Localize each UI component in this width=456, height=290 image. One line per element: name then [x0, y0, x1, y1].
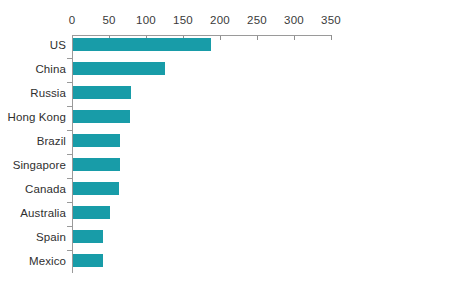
bar — [73, 182, 119, 195]
y-axis-tick — [67, 202, 72, 203]
x-axis-tick-label: 100 — [136, 14, 156, 26]
x-axis-tick-label: 50 — [102, 14, 115, 26]
y-axis-tick — [67, 106, 72, 107]
category-label: China — [35, 63, 66, 75]
category-label: Singapore — [13, 159, 66, 171]
category-label: US — [50, 39, 66, 51]
category-label: Australia — [20, 207, 66, 219]
x-axis-tick-label: 300 — [284, 14, 304, 26]
x-axis-tick-label: 350 — [321, 14, 341, 26]
x-axis-tick — [331, 35, 332, 40]
y-axis-tick — [67, 250, 72, 251]
bar — [73, 206, 110, 219]
x-axis-tick-label: 250 — [247, 14, 267, 26]
category-label: Russia — [30, 87, 66, 99]
bar — [73, 62, 165, 75]
x-axis-tick-label: 0 — [69, 14, 76, 26]
bar — [73, 38, 211, 51]
x-axis-tick-label: 200 — [210, 14, 230, 26]
y-axis-tick — [67, 178, 72, 179]
category-label: Brazil — [37, 135, 66, 147]
y-axis-tick — [67, 82, 72, 83]
bar — [73, 158, 120, 171]
y-axis-tick — [67, 58, 72, 59]
y-axis-tick — [67, 130, 72, 131]
bar — [73, 134, 120, 147]
category-label: Hong Kong — [8, 111, 66, 123]
category-label: Canada — [25, 183, 66, 195]
x-axis-line — [72, 35, 331, 36]
x-axis-tick-label: 150 — [173, 14, 193, 26]
y-axis-tick — [67, 226, 72, 227]
bar-chart: 0 50 100 150 200 250 300 350 US China Ru… — [0, 0, 456, 290]
bar — [73, 230, 103, 243]
category-label: Spain — [36, 231, 66, 243]
bar — [73, 254, 103, 267]
bar — [73, 86, 131, 99]
category-label: Mexico — [29, 255, 66, 267]
y-axis-tick — [67, 154, 72, 155]
bar — [73, 110, 130, 123]
